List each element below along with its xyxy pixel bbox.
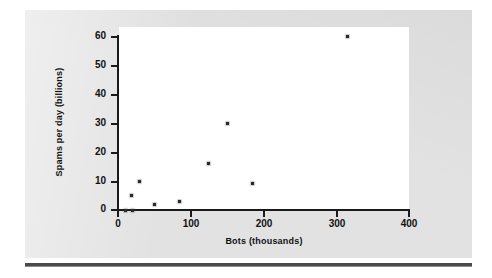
y-tick-label-40: 40 <box>76 89 106 99</box>
data-point <box>130 194 133 197</box>
data-point <box>138 180 141 183</box>
y-tick-20 <box>111 152 118 154</box>
x-axis-title: Bots (thousands) <box>119 236 409 246</box>
data-point <box>153 203 156 206</box>
figure-page: 60 50 40 30 20 10 0 0 100 200 300 400 Bo… <box>0 0 492 278</box>
data-point <box>207 162 210 165</box>
y-tick-label-10: 10 <box>76 176 106 186</box>
x-tick-0 <box>117 211 119 217</box>
x-tick-400 <box>408 211 410 217</box>
y-tick-label-20: 20 <box>76 147 106 157</box>
x-tick-300 <box>336 211 338 217</box>
y-tick-40 <box>111 94 118 96</box>
data-point <box>251 182 254 185</box>
y-axis-title: Spams per day (billions) <box>54 42 64 202</box>
y-tick-label-30: 30 <box>76 118 106 128</box>
y-tick-50 <box>111 65 118 67</box>
y-tick-30 <box>111 123 118 125</box>
x-tick-100 <box>190 211 192 217</box>
x-tick-label-300: 300 <box>317 219 357 229</box>
data-point <box>226 122 229 125</box>
data-point <box>124 209 127 212</box>
x-tick-200 <box>263 211 265 217</box>
x-tick-label-200: 200 <box>244 219 284 229</box>
x-tick-label-400: 400 <box>389 219 429 229</box>
y-tick-label-0: 0 <box>76 204 106 214</box>
plot-area <box>119 27 409 210</box>
x-tick-label-0: 0 <box>98 219 138 229</box>
data-point <box>346 35 349 38</box>
y-tick-10 <box>111 181 118 183</box>
y-tick-label-50: 50 <box>76 60 106 70</box>
scatter-chart: 60 50 40 30 20 10 0 0 100 200 300 400 Bo… <box>0 0 492 278</box>
y-tick-label-60: 60 <box>76 31 106 41</box>
y-tick-60 <box>111 36 118 38</box>
page-bottom-rule-shadow <box>25 266 472 267</box>
x-tick-label-100: 100 <box>171 219 211 229</box>
data-point <box>131 209 134 212</box>
data-point <box>178 200 181 203</box>
